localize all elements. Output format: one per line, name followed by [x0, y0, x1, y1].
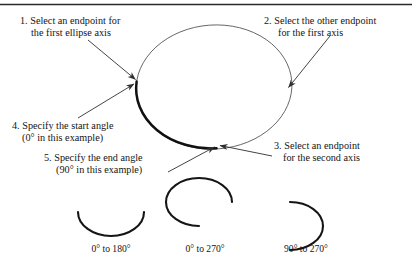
step-5-caption: 5. Specify the end angle(90° in this exa…: [44, 152, 143, 175]
step-3-caption: 3. Select an endpointfor the second axis: [274, 140, 360, 163]
main-ellipse-highlight-arc: [136, 82, 216, 149]
arrow-step-4: [78, 84, 134, 118]
step-2-caption: 2. Select the other endpointfor the firs…: [264, 15, 376, 38]
step-5-line-2: (90° in this example): [56, 164, 142, 176]
example-label-0-180: 0° to 180°: [66, 243, 156, 254]
main-ellipse-outline: [132, 20, 296, 155]
step-1-line-2: the first ellipse axis: [31, 27, 111, 39]
step-1-caption: 1. Select an endpoint forthe first ellip…: [20, 15, 120, 38]
step-4-line-2: (0° in this example): [22, 132, 103, 144]
arrow-step-2: [289, 36, 331, 88]
step-3-line-2: for the second axis: [283, 152, 360, 164]
example-arc-0-270: [166, 178, 232, 226]
step-4-line-1: 4. Specify the start angle: [12, 120, 114, 131]
step-5-line-1: 5. Specify the end angle: [44, 152, 143, 163]
step-2-line-2: for the first axis: [278, 27, 343, 39]
arrow-step-1: [88, 40, 136, 80]
step-4-caption: 4. Specify the start angle(0° in this ex…: [12, 120, 114, 143]
step-2-line-1: 2. Select the other endpoint: [264, 15, 376, 26]
arrow-step-5: [168, 147, 215, 172]
main-ellipse: [132, 20, 296, 155]
example-label-0-270: 0° to 270°: [160, 243, 250, 254]
arrow-step-3: [220, 146, 272, 157]
example-label-90-270: 90° to 270°: [258, 243, 354, 254]
example-arc-0-180: [78, 212, 144, 236]
step-3-line-1: 3. Select an endpoint: [274, 140, 360, 151]
step-1-line-1: 1. Select an endpoint for: [20, 15, 120, 26]
